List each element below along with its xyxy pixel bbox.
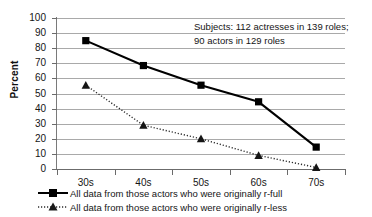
data-point-triangle[interactable] [197,135,205,143]
data-point-square[interactable] [82,37,89,44]
data-point-triangle[interactable] [139,121,147,129]
data-point-square[interactable] [197,82,204,89]
legend-key-square-solid [36,186,70,200]
series-line [86,41,316,147]
chart-figure: Percent 0102030405060708090100 30s40s50s… [0,0,372,217]
data-point-square[interactable] [140,62,147,69]
data-point-triangle[interactable] [82,81,90,89]
series-r-full [82,37,320,151]
chart-legend: All data from those actors who were orig… [36,186,366,214]
legend-item-r-less[interactable]: All data from those actors who were orig… [36,200,366,214]
legend-item-r-full[interactable]: All data from those actors who were orig… [36,186,366,200]
series-layer [0,0,372,217]
legend-label-r-less: All data from those actors who were orig… [70,202,287,213]
legend-label-r-full: All data from those actors who were orig… [70,188,282,199]
series-line [86,85,316,167]
series-r-less [82,81,321,171]
legend-key-triangle-dotted [36,200,70,214]
data-point-square[interactable] [255,98,262,105]
data-point-square[interactable] [313,144,320,151]
